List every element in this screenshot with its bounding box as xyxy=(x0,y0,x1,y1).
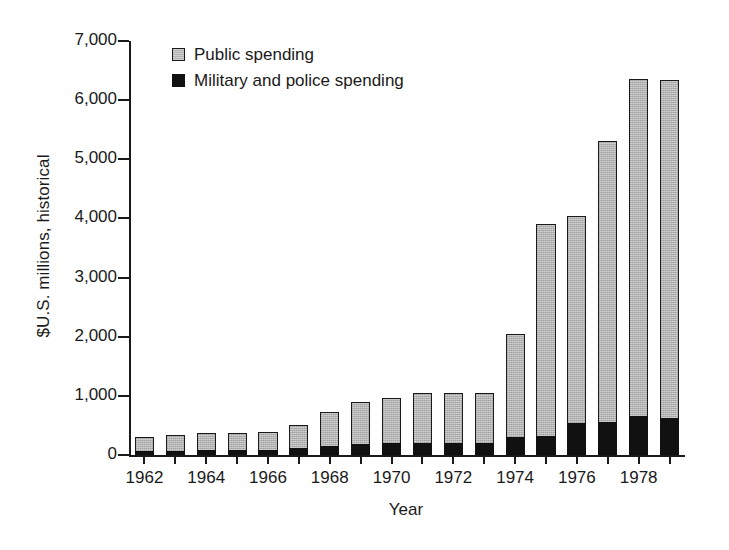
bar-segment-military-police-spending xyxy=(536,436,555,455)
bar-segment-military-police-spending xyxy=(135,451,154,455)
legend-item-label: Military and police spending xyxy=(194,72,404,89)
x-tick-mark xyxy=(576,455,578,464)
y-tick-label: 2,000 xyxy=(27,326,117,346)
x-tick-label: 1972 xyxy=(434,468,472,488)
x-tick-label: 1966 xyxy=(249,468,287,488)
x-tick-mark xyxy=(174,455,176,464)
x-tick-mark xyxy=(267,455,269,464)
x-tick-mark xyxy=(391,455,393,464)
bar-segment-public-spending xyxy=(629,79,648,455)
bar-1974 xyxy=(506,334,525,455)
x-tick-mark xyxy=(329,455,331,464)
x-tick-mark xyxy=(143,455,145,464)
bar-segment-military-police-spending xyxy=(506,437,525,455)
bar-1963 xyxy=(166,435,185,455)
bar-1972 xyxy=(444,393,463,455)
bar-1976 xyxy=(567,216,586,455)
y-tick-mark xyxy=(118,99,129,101)
y-axis-title: $U.S. millions, historical xyxy=(34,96,54,396)
y-tick-label: 4,000 xyxy=(27,207,117,227)
y-tick-mark xyxy=(118,277,129,279)
y-tick-mark xyxy=(118,158,129,160)
bar-1962 xyxy=(135,437,154,455)
legend-item: Public spending xyxy=(172,41,404,67)
legend-item-label: Public spending xyxy=(194,46,314,63)
y-tick-label: 5,000 xyxy=(27,148,117,168)
bar-segment-public-spending xyxy=(660,80,679,455)
y-tick-mark xyxy=(118,336,129,338)
bar-segment-military-police-spending xyxy=(629,416,648,455)
x-tick-label: 1968 xyxy=(311,468,349,488)
plot-area: 01,0002,0003,0004,0005,0006,0007,000 196… xyxy=(129,41,685,455)
y-tick-label: 0 xyxy=(27,444,117,464)
x-tick-mark xyxy=(669,455,671,464)
military-swatch-icon xyxy=(172,74,185,87)
bars-group xyxy=(129,41,685,455)
bar-segment-military-police-spending xyxy=(598,422,617,455)
legend-item: Military and police spending xyxy=(172,67,404,93)
x-tick-label: 1976 xyxy=(558,468,596,488)
stacked-bar-chart: $U.S. millions, historical Year 01,0002,… xyxy=(0,0,729,550)
bar-segment-military-police-spending xyxy=(320,446,339,455)
bar-1978 xyxy=(629,79,648,455)
bar-1970 xyxy=(382,398,401,455)
bar-1967 xyxy=(289,425,308,455)
bar-segment-military-police-spending xyxy=(444,443,463,455)
x-tick-mark xyxy=(545,455,547,464)
x-tick-mark xyxy=(483,455,485,464)
bar-segment-military-police-spending xyxy=(228,450,247,455)
bar-segment-military-police-spending xyxy=(382,443,401,455)
y-tick-label: 6,000 xyxy=(27,89,117,109)
x-tick-mark xyxy=(421,455,423,464)
y-tick-label: 3,000 xyxy=(27,267,117,287)
bar-1971 xyxy=(413,393,432,455)
bar-segment-public-spending xyxy=(567,216,586,455)
bar-segment-military-police-spending xyxy=(197,450,216,455)
bar-1964 xyxy=(197,433,216,455)
x-tick-mark xyxy=(514,455,516,464)
x-tick-label: 1970 xyxy=(373,468,411,488)
bar-1968 xyxy=(320,412,339,455)
y-tick-mark xyxy=(118,454,129,456)
y-tick-label: 7,000 xyxy=(27,30,117,50)
x-axis-title: Year xyxy=(128,500,684,520)
public-swatch-icon xyxy=(172,48,185,61)
x-tick-label: 1974 xyxy=(496,468,534,488)
x-tick-mark xyxy=(452,455,454,464)
x-tick-label: 1964 xyxy=(187,468,225,488)
x-axis-line xyxy=(129,455,685,457)
chart-legend: Public spendingMilitary and police spend… xyxy=(172,41,404,93)
bar-segment-military-police-spending xyxy=(567,423,586,455)
bar-segment-military-police-spending xyxy=(475,443,494,455)
bar-1969 xyxy=(351,402,370,455)
bar-1979 xyxy=(660,80,679,455)
bar-segment-military-police-spending xyxy=(413,443,432,455)
y-tick-label: 1,000 xyxy=(27,385,117,405)
bar-segment-military-police-spending xyxy=(351,444,370,455)
x-tick-label: 1978 xyxy=(620,468,658,488)
bar-segment-public-spending xyxy=(536,224,555,455)
x-tick-mark xyxy=(360,455,362,464)
bar-segment-military-police-spending xyxy=(289,448,308,455)
x-tick-mark xyxy=(236,455,238,464)
bar-segment-military-police-spending xyxy=(166,451,185,455)
x-tick-mark xyxy=(205,455,207,464)
bar-1965 xyxy=(228,433,247,455)
y-tick-mark xyxy=(118,217,129,219)
bar-1966 xyxy=(258,432,277,455)
bar-1977 xyxy=(598,141,617,455)
bar-segment-military-police-spending xyxy=(660,418,679,455)
x-tick-mark xyxy=(638,455,640,464)
bar-1973 xyxy=(475,393,494,455)
y-tick-mark xyxy=(118,395,129,397)
bar-segment-military-police-spending xyxy=(258,450,277,455)
x-tick-mark xyxy=(607,455,609,464)
bar-1975 xyxy=(536,224,555,455)
bar-segment-public-spending xyxy=(598,141,617,455)
x-tick-mark xyxy=(298,455,300,464)
y-tick-mark xyxy=(118,40,129,42)
x-tick-label: 1962 xyxy=(126,468,164,488)
